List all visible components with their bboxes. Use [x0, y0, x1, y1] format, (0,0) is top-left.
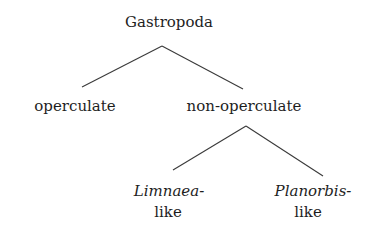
taxonomy-tree-diagram: Gastropoda operculate non-operculate Lim…	[0, 0, 379, 247]
node-limnaea-suffix: like	[154, 205, 182, 220]
node-limnaea-name: Limnaea-	[134, 184, 204, 199]
edge-gastropoda-operculate	[82, 46, 162, 87]
edge-non-operculate-limnaea	[173, 126, 246, 170]
node-planorbis-suffix: like	[294, 205, 322, 220]
edge-gastropoda-non-operculate	[162, 46, 243, 89]
node-operculate: operculate	[34, 99, 115, 114]
node-non-operculate: non-operculate	[187, 99, 302, 114]
node-planorbis-name: Planorbis-	[275, 184, 352, 199]
node-gastropoda: Gastropoda	[125, 15, 213, 30]
edge-non-operculate-planorbis	[246, 126, 323, 176]
